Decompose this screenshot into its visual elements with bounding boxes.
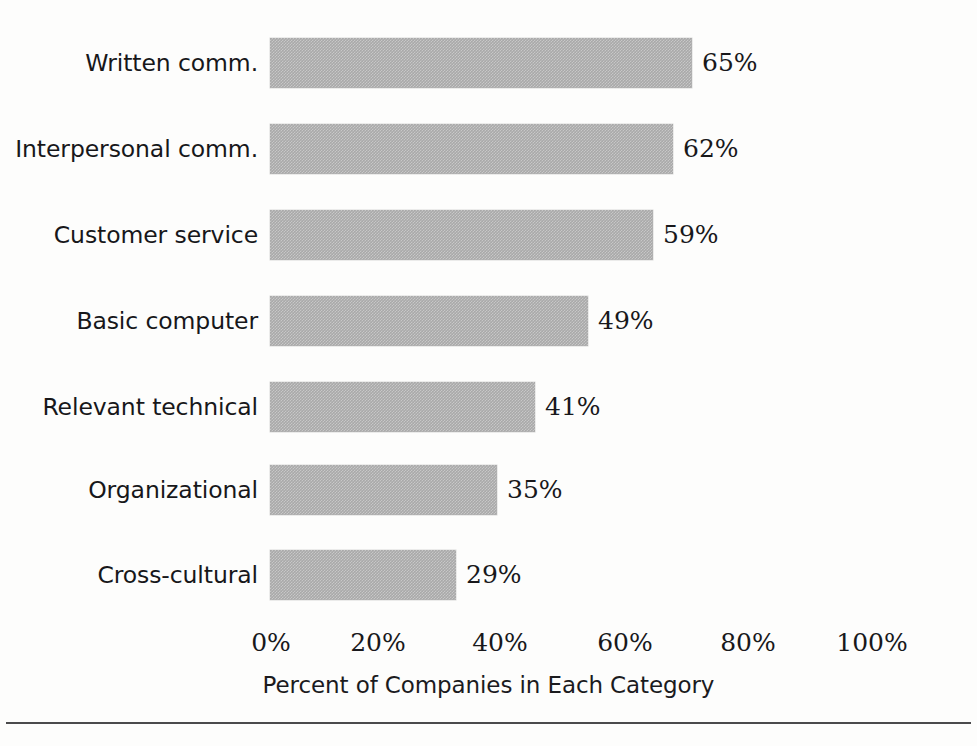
bar-chart-figure: Written comm. 65% Interpersonal comm. 62… [0,0,977,746]
bottom-divider [6,722,971,724]
x-tick-label: 40% [472,628,528,657]
bar-value-label: 49% [598,295,654,347]
x-axis: 0% 20% 40% 60% 80% 100% [0,620,977,680]
plot-area: Written comm. 65% Interpersonal comm. 62… [0,0,977,620]
bar [270,382,535,432]
bar-value-label: 35% [507,464,563,516]
bar-row: Interpersonal comm. 62% [0,123,977,175]
x-tick-label: 80% [720,628,776,657]
x-axis-title: Percent of Companies in Each Category [0,672,977,698]
category-label: Basic computer [0,295,258,347]
category-label: Written comm. [0,37,258,89]
x-tick-label: 100% [836,628,907,657]
bar-row: Cross-cultural 29% [0,549,977,601]
bar-row: Relevant technical 41% [0,381,977,433]
category-label: Interpersonal comm. [0,123,258,175]
bar [270,296,588,346]
category-label: Organizational [0,464,258,516]
bar [270,124,673,174]
category-label: Cross-cultural [0,549,258,601]
bar-value-label: 29% [466,549,522,601]
bar-row: Basic computer 49% [0,295,977,347]
bar [270,210,653,260]
bar-row: Organizational 35% [0,464,977,516]
bar-value-label: 59% [663,209,719,261]
bar-value-label: 65% [702,37,758,89]
bar-row: Customer service 59% [0,209,977,261]
category-label: Customer service [0,209,258,261]
bar [270,38,692,88]
bar-value-label: 62% [683,123,739,175]
bar-value-label: 41% [545,381,601,433]
x-tick-label: 20% [350,628,406,657]
x-tick-label: 0% [251,628,291,657]
x-tick-label: 60% [597,628,653,657]
bar [270,550,456,600]
bar-row: Written comm. 65% [0,37,977,89]
category-label: Relevant technical [0,381,258,433]
bar [270,465,497,515]
